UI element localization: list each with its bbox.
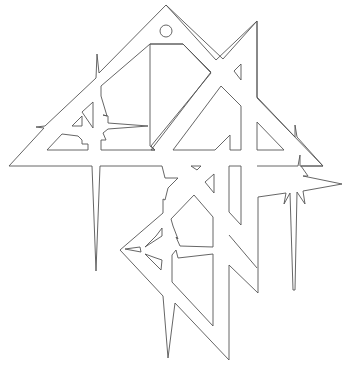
center-small-right-triangle xyxy=(205,174,214,193)
left-big-triangle-outer xyxy=(166,5,323,166)
lower-left-diamond-bottom xyxy=(172,250,213,326)
center-small-top-triangle xyxy=(191,166,201,170)
upper-inner-cut xyxy=(150,44,211,150)
outline-paths xyxy=(9,5,342,360)
right-inner-triangle xyxy=(257,122,284,150)
ornament-drawing xyxy=(0,0,342,386)
diamond-lower-star-triangle xyxy=(145,254,162,270)
outer-contour xyxy=(9,5,342,360)
upper-right-notch xyxy=(234,64,241,80)
ornament-svg xyxy=(0,0,342,386)
left-small-triangle-2 xyxy=(82,102,93,128)
left-lower-cut xyxy=(47,134,88,150)
lower-left-diamond-inner xyxy=(171,195,213,247)
center-column-cut xyxy=(229,166,241,225)
diamond-upper-star-triangle xyxy=(145,228,162,247)
upper-inner-polygon xyxy=(101,44,211,150)
right-lower-column xyxy=(229,235,257,268)
diamond-left-spike xyxy=(125,247,141,252)
left-small-triangle xyxy=(72,116,82,126)
center-right-cut xyxy=(173,86,241,150)
hanging-hole-icon xyxy=(160,25,172,37)
